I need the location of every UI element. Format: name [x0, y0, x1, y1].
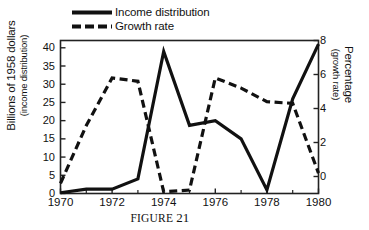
figure-21: Income distribution Growth rate Billions…	[0, 0, 369, 230]
caption-number: 21	[176, 210, 189, 225]
series-line-income-distribution	[61, 44, 319, 193]
figure-caption: FIGURE 21	[0, 210, 320, 226]
axis-tick-marks	[61, 41, 319, 194]
plot-area	[0, 0, 369, 230]
axes-frame	[61, 41, 319, 194]
data-series-group	[61, 44, 319, 193]
caption-word: FIGURE	[130, 212, 173, 224]
axes-frame-rect	[61, 41, 319, 194]
series-line-growth-rate	[61, 78, 319, 192]
